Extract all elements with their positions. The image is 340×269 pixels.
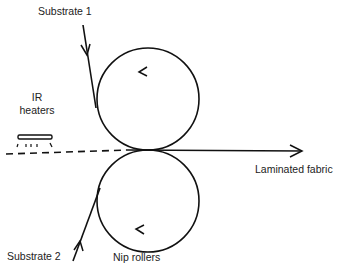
lamination-diagram	[0, 0, 340, 269]
substrate1-path	[81, 25, 96, 108]
laminated-fabric-label: Laminated fabric	[255, 163, 333, 175]
ir-heaters-label-line2: heaters	[17, 104, 57, 116]
ir-heater-icon	[17, 135, 52, 147]
top-roller	[97, 48, 199, 150]
bottom-roller-rotation-arrow-icon	[136, 225, 144, 234]
nip-rollers-label: Nip rollers	[113, 251, 160, 263]
substrate2-label: Substrate 2	[7, 250, 61, 262]
top-roller-rotation-arrow-icon	[139, 67, 147, 76]
bottom-roller	[97, 150, 199, 252]
ir-heaters-label-line1: IR	[17, 91, 57, 103]
substrate2-path	[73, 188, 100, 261]
dashed-feed-line	[6, 150, 128, 154]
substrate1-label: Substrate 1	[38, 5, 92, 17]
ir-heaters-label: IR heaters	[17, 91, 57, 116]
